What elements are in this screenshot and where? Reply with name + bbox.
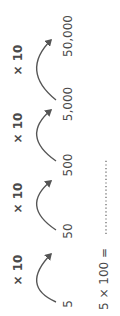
sequence-number: 5 (61, 300, 75, 308)
sequence-number: 500 (61, 154, 75, 177)
multiplier-label: × 10 (11, 183, 25, 214)
multiplier-label: × 10 (11, 113, 25, 144)
arrow-arc-icon (37, 40, 56, 100)
arrow-arc-icon (37, 254, 56, 302)
multiplier-label: × 10 (11, 45, 25, 76)
sequence-number: 5,000 (61, 87, 75, 121)
sequence-number: 50 (61, 223, 75, 238)
question-text: 5 × 100 = (97, 248, 111, 310)
arrow-arc-icon (37, 110, 56, 161)
sequence-number: 50,000 (61, 15, 75, 57)
arrow-arc-icon (37, 181, 56, 230)
multiplication-diagram: 5 50 500 5,000 50,000 × 10 × 10 × 10 × 1… (0, 0, 120, 316)
multiplier-label: × 10 (11, 255, 25, 286)
